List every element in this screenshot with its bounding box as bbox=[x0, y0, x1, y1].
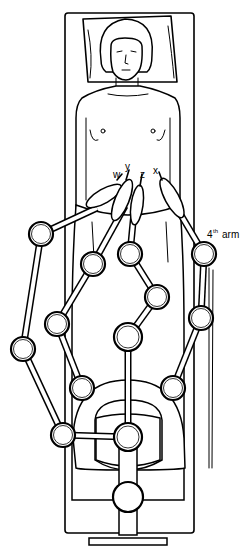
joint bbox=[81, 252, 105, 276]
port-label-y: y bbox=[125, 161, 130, 172]
port-label-x: x bbox=[153, 165, 158, 176]
joint bbox=[70, 376, 94, 400]
joint bbox=[145, 285, 169, 309]
joint bbox=[118, 242, 142, 266]
robot-foot bbox=[89, 538, 167, 545]
joint bbox=[114, 323, 142, 351]
joint bbox=[189, 306, 213, 330]
svg-text:th: th bbox=[213, 228, 218, 234]
robotic-surgery-diagram: w y z x 4 th arm bbox=[0, 0, 250, 549]
joint bbox=[51, 423, 75, 447]
joint bbox=[45, 312, 69, 336]
column-joint bbox=[113, 482, 143, 512]
svg-text:arm: arm bbox=[222, 229, 239, 240]
patient-head bbox=[100, 19, 152, 88]
port-label-w: w bbox=[112, 169, 121, 180]
joint bbox=[114, 423, 142, 451]
joint bbox=[192, 242, 216, 266]
joint bbox=[161, 376, 185, 400]
fourth-arm-label: 4 th arm bbox=[207, 228, 239, 240]
joint bbox=[11, 337, 35, 361]
joint bbox=[29, 222, 53, 246]
port-label-z: z bbox=[140, 169, 145, 180]
